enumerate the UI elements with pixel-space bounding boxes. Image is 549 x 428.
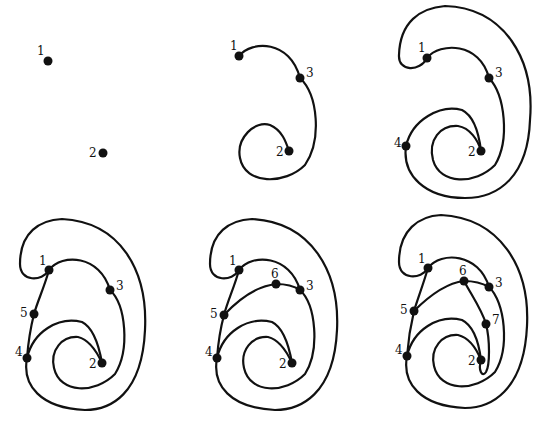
panel-4: 1 3 5 4 2	[15, 219, 145, 410]
vertex-label-2: 2	[276, 145, 284, 159]
vertex-3	[485, 74, 494, 83]
vertex-2	[477, 147, 486, 156]
vertex-label-2: 2	[89, 146, 97, 160]
vertex-label-3: 3	[306, 279, 314, 293]
vertex-label-3: 3	[495, 276, 503, 290]
panel-3: 1 3 4 2	[394, 6, 531, 198]
vertex-label-1: 1	[39, 254, 47, 268]
vertex-3	[106, 286, 115, 295]
vertex-4	[403, 352, 412, 361]
vertex-label-6: 6	[271, 267, 279, 281]
vertex-label-5: 5	[400, 303, 408, 317]
vertex-7	[482, 320, 491, 329]
vertex-label-1: 1	[418, 252, 426, 266]
vertex-5	[220, 311, 229, 320]
vertex-5	[410, 307, 419, 316]
outer-loop	[20, 219, 145, 410]
vertex-label-1: 1	[418, 41, 426, 55]
vertex-label-2: 2	[89, 357, 97, 371]
vertex-4	[213, 354, 222, 363]
vertex-2	[477, 356, 486, 365]
panel-5: 1 6 3 5 4 2	[205, 219, 337, 410]
vertex-label-4: 4	[394, 136, 402, 150]
curve-3-2-spiral	[432, 78, 504, 179]
vertex-4	[402, 142, 411, 151]
curve-3-2-spiral	[53, 290, 124, 388]
vertex-1	[44, 57, 53, 66]
vertex-label-2: 2	[279, 357, 287, 371]
vertex-2	[285, 147, 294, 156]
vertex-label-4: 4	[15, 345, 23, 359]
curve-1-3-2	[239, 46, 316, 179]
vertex-label-1: 1	[230, 39, 238, 53]
vertex-2	[99, 149, 108, 158]
vertex-label-6: 6	[459, 264, 467, 278]
diagram-canvas: 1 2 1 3 2 1 3 4 2 1 3	[0, 0, 549, 428]
vertex-4	[23, 354, 32, 363]
curve-3-2-spiral	[433, 287, 504, 386]
outer-loop	[399, 6, 531, 198]
vertex-label-3: 3	[116, 279, 124, 293]
vertex-3	[485, 283, 494, 292]
vertex-2	[98, 359, 107, 368]
vertex-label-1: 1	[37, 44, 45, 58]
curve-3-2-spiral	[243, 290, 314, 388]
vertex-5	[30, 310, 39, 319]
vertex-label-2: 2	[468, 145, 476, 159]
vertex-label-5: 5	[210, 307, 218, 321]
curve-5-6-3	[224, 284, 300, 315]
curve-1-3	[49, 260, 110, 290]
vertex-label-5: 5	[20, 306, 28, 320]
outer-loop	[210, 219, 337, 410]
vertex-3	[296, 286, 305, 295]
vertex-label-4: 4	[205, 345, 213, 359]
vertex-label-2: 2	[468, 354, 476, 368]
vertex-label-7: 7	[492, 313, 500, 327]
vertex-2	[288, 359, 297, 368]
panel-2: 1 3 2	[230, 39, 316, 179]
vertex-label-4: 4	[395, 343, 403, 357]
vertex-label-3: 3	[306, 66, 314, 80]
panel-1: 1 2	[37, 44, 108, 160]
curve-1-3	[427, 48, 489, 78]
vertex-3	[296, 74, 305, 83]
vertex-label-3: 3	[495, 66, 503, 80]
panel-6: 1 6 3 5 7 4 2	[395, 215, 527, 408]
vertex-label-1: 1	[229, 254, 237, 268]
